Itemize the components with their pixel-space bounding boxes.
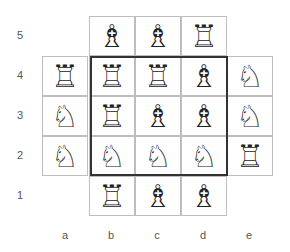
- knight-icon: ♘: [190, 141, 218, 172]
- square-c1: ♗: [135, 176, 181, 216]
- square-a3: ♘: [42, 96, 88, 136]
- file-label-b: b: [88, 229, 134, 241]
- file-label-a: a: [42, 229, 88, 241]
- square-b4: ♖: [89, 56, 135, 96]
- square-a2: ♘: [42, 136, 88, 176]
- bishop-icon: ♗: [144, 101, 172, 132]
- knight-icon: ♘: [236, 101, 264, 132]
- square-b3: ♖: [89, 96, 135, 136]
- file-label-d: d: [180, 229, 226, 241]
- square-c4: ♖: [135, 56, 181, 96]
- square-e2: ♖: [227, 136, 273, 176]
- rook-icon: ♖: [51, 61, 79, 92]
- square-a4: ♖: [42, 56, 88, 96]
- rank-label-3: 3: [15, 109, 25, 121]
- rank-label-2: 2: [15, 149, 25, 161]
- square-b5: ♗: [89, 16, 135, 56]
- bishop-icon: ♗: [98, 21, 126, 52]
- rank-label-5: 5: [15, 29, 25, 41]
- knight-icon: ♘: [236, 61, 264, 92]
- square-b1: ♖: [89, 176, 135, 216]
- square-d2: ♘: [181, 136, 227, 176]
- square-c3: ♗: [135, 96, 181, 136]
- square-d1: ♗: [181, 176, 227, 216]
- file-label-e: e: [226, 229, 272, 241]
- bishop-icon: ♗: [144, 181, 172, 212]
- rank-label-1: 1: [15, 189, 25, 201]
- bishop-icon: ♗: [144, 21, 172, 52]
- rook-icon: ♖: [144, 61, 172, 92]
- bishop-icon: ♗: [190, 101, 218, 132]
- rook-icon: ♖: [98, 101, 126, 132]
- square-d5: ♖: [181, 16, 227, 56]
- rook-icon: ♖: [190, 21, 218, 52]
- square-c5: ♗: [135, 16, 181, 56]
- rook-icon: ♖: [236, 141, 264, 172]
- knight-icon: ♘: [51, 141, 79, 172]
- square-c2: ♘: [135, 136, 181, 176]
- square-d4: ♗: [181, 56, 227, 96]
- rook-icon: ♖: [98, 61, 126, 92]
- rank-label-4: 4: [15, 69, 25, 81]
- square-e4: ♘: [227, 56, 273, 96]
- rook-icon: ♖: [98, 181, 126, 212]
- knight-icon: ♘: [98, 141, 126, 172]
- square-b2: ♘: [89, 136, 135, 176]
- bishop-icon: ♗: [190, 181, 218, 212]
- knight-icon: ♘: [51, 101, 79, 132]
- square-e3: ♘: [227, 96, 273, 136]
- knight-icon: ♘: [144, 141, 172, 172]
- bishop-icon: ♗: [190, 61, 218, 92]
- file-label-c: c: [134, 229, 180, 241]
- square-d3: ♗: [181, 96, 227, 136]
